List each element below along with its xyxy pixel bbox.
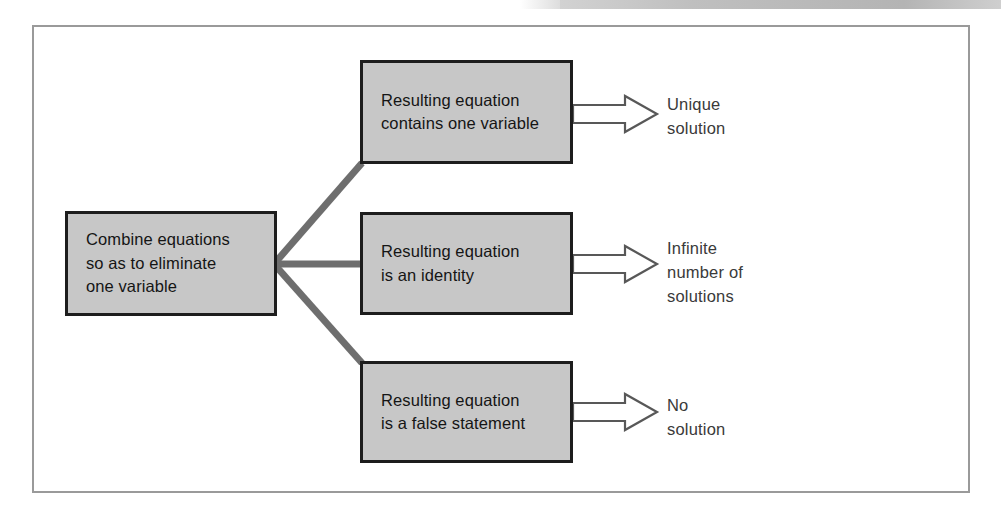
node-resulting-equation-false-statement[interactable]: Resulting equation is a false statement [360,361,573,463]
scan-artifact-bar [560,0,1001,9]
node-resulting-equation-identity[interactable]: Resulting equation is an identity [360,212,573,315]
outcome-infinite-solutions: Infinite number of solutions [667,237,743,309]
node-false-statement-label: Resulting equation is a false statement [381,389,525,436]
outcome-unique-solution: Unique solution [667,93,725,141]
node-one-variable-label: Resulting equation contains one variable [381,89,539,136]
node-combine-equations[interactable]: Combine equations so as to eliminate one… [65,211,277,316]
node-resulting-equation-one-variable[interactable]: Resulting equation contains one variable [360,60,573,164]
node-combine-equations-label: Combine equations so as to eliminate one… [86,228,230,298]
outcome-no-solution: No solution [667,394,725,442]
node-identity-label: Resulting equation is an identity [381,240,519,287]
